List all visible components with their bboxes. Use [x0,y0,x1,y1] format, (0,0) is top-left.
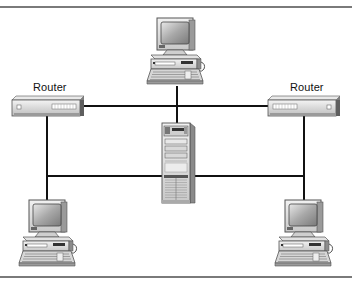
server-tower [162,123,195,203]
router-left [12,96,84,116]
router-led-icon [17,105,21,109]
workstation-bottom-left [19,200,77,266]
network-diagram: Router Router [0,0,352,284]
diagram-svg [0,0,352,284]
router-right-label: Router [290,81,324,93]
workstation-top [147,18,205,84]
workstation-bottom-right [275,200,333,266]
router-left-label: Router [33,81,67,93]
router-right [268,96,340,116]
router-led-icon [327,105,331,109]
